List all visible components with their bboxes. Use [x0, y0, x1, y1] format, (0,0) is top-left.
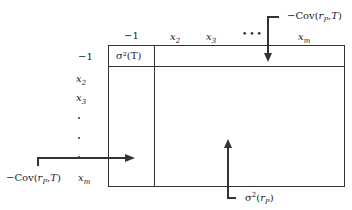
column-divider: [154, 45, 155, 187]
col-header-ellipsis: •••: [242, 29, 264, 39]
row-header-minus-1: −1: [78, 51, 93, 62]
row-divider: [108, 66, 345, 67]
arrow-top-vertical: [267, 16, 269, 56]
arrow-left-horizontal: [37, 157, 127, 159]
row-header-xm: xm: [78, 172, 90, 186]
annotation-bottom-variance-rp: σ2(rP): [245, 191, 274, 206]
arrow-bottom-horizontal: [227, 197, 236, 199]
top-left-cell-variance-t: σ²(T): [116, 50, 141, 61]
row-ellipsis-dot: [78, 137, 80, 139]
col-header-xm: xm: [298, 31, 310, 45]
arrow-bottom-vertical: [227, 146, 229, 199]
arrow-right-icon: [125, 154, 135, 162]
row-ellipsis-dot: [78, 117, 80, 119]
col-header-minus-1: −1: [124, 30, 139, 41]
arrow-up-icon: [224, 139, 232, 148]
row-header-x3: x3: [76, 92, 86, 106]
arrow-down-icon: [264, 53, 272, 62]
annotation-left-cov: −Cov(rP,T): [6, 172, 61, 186]
row-header-x2: x2: [76, 73, 86, 87]
annotation-top-cov: −Cov(rP,T): [287, 10, 342, 24]
col-header-x3: x3: [206, 31, 216, 45]
col-header-x2: x2: [170, 31, 180, 45]
